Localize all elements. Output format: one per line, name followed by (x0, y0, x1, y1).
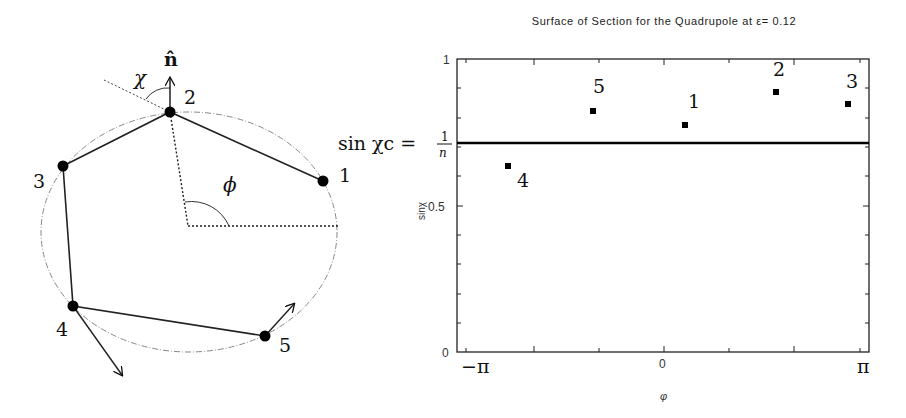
arrow-from-4 (73, 306, 122, 375)
point-label-5: 5 (593, 75, 605, 97)
chi-label: χ (132, 66, 148, 90)
surface-of-section-plot: Surface of Section for the Quadrupole at… (338, 15, 870, 402)
y-ticks (457, 88, 869, 323)
critical-angle-label: sin χc = 1 n (338, 130, 452, 160)
orbit-path (63, 112, 323, 336)
vertex-2 (165, 107, 176, 118)
x-tick-zero: 0 (659, 357, 666, 371)
point-label-2: 2 (773, 58, 785, 80)
plot-frame (457, 59, 869, 352)
y-axis-label: sinχ (416, 201, 427, 220)
chi-arc (146, 88, 170, 99)
data-point-5 (590, 108, 596, 114)
x-axis-label: φ (660, 390, 667, 402)
point-label-1: 1 (688, 90, 700, 112)
critical-label-lhs: sin χc = (338, 132, 416, 154)
vertex-3 (58, 161, 69, 172)
data-point-4 (505, 163, 511, 169)
vertex-label-1: 1 (339, 164, 351, 186)
data-point-2 (773, 89, 779, 95)
phi-arc (185, 201, 229, 226)
point-label-4: 4 (517, 169, 529, 191)
billiard-diagram: 1 2 3 4 5 n̂ χ ϕ (33, 48, 351, 375)
vertex-label-5: 5 (279, 334, 291, 356)
vertex-label-4: 4 (56, 318, 68, 340)
y-tick-1: 1 (443, 53, 450, 67)
data-point-3 (845, 101, 851, 107)
figure: 1 2 3 4 5 n̂ χ ϕ Surface of Section for … (0, 0, 906, 418)
data-point-1 (682, 122, 688, 128)
vertex-label-2: 2 (184, 86, 196, 108)
normal-label: n̂ (164, 48, 178, 70)
vertex-4 (68, 301, 79, 312)
y-tick-0.5: 0.5 (428, 200, 445, 214)
y-tick-0: 0 (442, 346, 449, 360)
critical-label-numerator: 1 (441, 130, 449, 144)
plot-title: Surface of Section for the Quadrupole at… (532, 15, 797, 27)
vertex-label-3: 3 (33, 170, 45, 192)
x-tick-neg-pi: −π (461, 355, 489, 377)
point-label-3: 3 (846, 70, 858, 92)
critical-label-denominator: n (439, 146, 447, 160)
radius-line (170, 112, 188, 226)
x-ticks (466, 59, 860, 352)
phi-label: ϕ (223, 173, 237, 197)
boundary-ellipse (41, 112, 337, 352)
x-tick-pi: π (857, 355, 870, 377)
vertex-1 (318, 176, 329, 187)
vertex-5 (260, 331, 271, 342)
